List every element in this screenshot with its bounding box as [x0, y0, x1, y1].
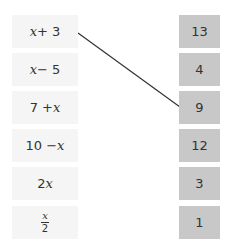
expr-post: − 5: [37, 62, 60, 77]
expr-var: x: [45, 176, 52, 191]
expr-var: x: [30, 62, 37, 77]
left-item-2x[interactable]: 2x: [12, 167, 78, 200]
expr-var: x: [53, 100, 60, 115]
right-item-4[interactable]: 4: [179, 53, 220, 86]
value: 3: [195, 176, 203, 191]
right-item-1[interactable]: 1: [179, 206, 220, 239]
fraction-numerator: x: [41, 211, 49, 223]
value: 4: [195, 62, 203, 77]
expr-var: x: [30, 24, 37, 39]
right-item-12[interactable]: 12: [179, 129, 220, 162]
right-item-9[interactable]: 9: [179, 91, 220, 124]
connection-line-x-plus-3-to-9[interactable]: [78, 33, 180, 107]
right-item-3[interactable]: 3: [179, 167, 220, 200]
left-item-10-minus-x[interactable]: 10 − x: [12, 129, 78, 162]
expr-var: x: [57, 138, 64, 153]
fraction: x 2: [41, 211, 49, 234]
fraction-denominator: 2: [42, 223, 48, 234]
value: 12: [191, 138, 208, 153]
right-item-13[interactable]: 13: [179, 15, 220, 48]
expr-pre: 10 −: [26, 138, 58, 153]
value: 9: [195, 100, 203, 115]
expr-pre: 7 +: [30, 100, 53, 115]
left-item-x-plus-3[interactable]: x + 3: [12, 15, 78, 48]
left-item-x-minus-5[interactable]: x − 5: [12, 53, 78, 86]
expr-post: + 3: [37, 24, 60, 39]
left-item-x-over-2[interactable]: x 2: [12, 206, 78, 239]
value: 13: [191, 24, 208, 39]
expr-pre: 2: [37, 176, 45, 191]
value: 1: [195, 215, 203, 230]
left-item-7-plus-x[interactable]: 7 + x: [12, 91, 78, 124]
